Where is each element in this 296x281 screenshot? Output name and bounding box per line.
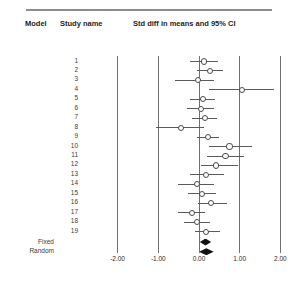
- effect-marker-13: [203, 172, 209, 178]
- gridline-100: [158, 56, 159, 249]
- axis-tick-label-4: 2.00: [265, 255, 295, 262]
- study-name-16: 16: [56, 198, 78, 205]
- axis-tick-2: [199, 249, 200, 253]
- study-name-2: 2: [56, 66, 78, 73]
- effect-marker-4: [239, 87, 245, 93]
- gridline-200: [117, 56, 118, 249]
- study-name-3: 3: [56, 75, 78, 82]
- axis-tick-label-3: 1.00: [225, 255, 255, 262]
- model-label-random: Random: [14, 247, 54, 254]
- axis-tick-label-0: -2.00: [103, 255, 133, 262]
- study-name-12: 12: [56, 160, 78, 167]
- ci-line-12: [201, 165, 238, 166]
- study-name-9: 9: [56, 132, 78, 139]
- summary-diamond-fixed: [200, 239, 211, 246]
- study-name-4: 4: [56, 85, 78, 92]
- axis-tick-label-2: 0.00: [184, 255, 214, 262]
- effect-marker-19: [203, 229, 209, 235]
- study-name-6: 6: [56, 104, 78, 111]
- effect-marker-5: [200, 96, 206, 102]
- axis-tick-3: [239, 249, 240, 253]
- effect-marker-3: [195, 77, 201, 83]
- gridline-200: [280, 56, 281, 249]
- study-name-10: 10: [56, 142, 78, 149]
- effect-marker-6: [198, 106, 204, 112]
- study-name-19: 19: [56, 227, 78, 234]
- effect-marker-12: [213, 162, 219, 168]
- study-name-7: 7: [56, 113, 78, 120]
- study-name-13: 13: [56, 170, 78, 177]
- study-name-18: 18: [56, 217, 78, 224]
- study-name-15: 15: [56, 189, 78, 196]
- effect-marker-16: [208, 200, 214, 206]
- study-name-5: 5: [56, 94, 78, 101]
- effect-marker-11: [222, 153, 228, 159]
- effect-marker-15: [199, 191, 205, 197]
- effect-marker-8: [178, 125, 184, 131]
- study-name-17: 17: [56, 208, 78, 215]
- study-name-8: 8: [56, 123, 78, 130]
- effect-marker-10: [226, 143, 232, 149]
- gridline-100: [239, 56, 240, 249]
- study-name-1: 1: [56, 57, 78, 64]
- axis-tick-1: [158, 249, 159, 253]
- axis-tick-0: [117, 249, 118, 253]
- study-name-11: 11: [56, 151, 78, 158]
- forest-plot: Model Study name Std diff in means and 9…: [0, 0, 296, 281]
- effect-marker-17: [189, 210, 195, 216]
- model-label-fixed: Fixed: [14, 238, 54, 245]
- study-name-14: 14: [56, 179, 78, 186]
- plot-canvas: 12345678910111213141516171819FixedRandom…: [0, 0, 296, 281]
- effect-marker-7: [202, 115, 208, 121]
- effect-marker-1: [201, 58, 207, 64]
- axis-tick-label-1: -1.00: [143, 255, 173, 262]
- effect-marker-9: [205, 134, 211, 140]
- axis-tick-4: [280, 249, 281, 253]
- effect-marker-2: [207, 68, 213, 74]
